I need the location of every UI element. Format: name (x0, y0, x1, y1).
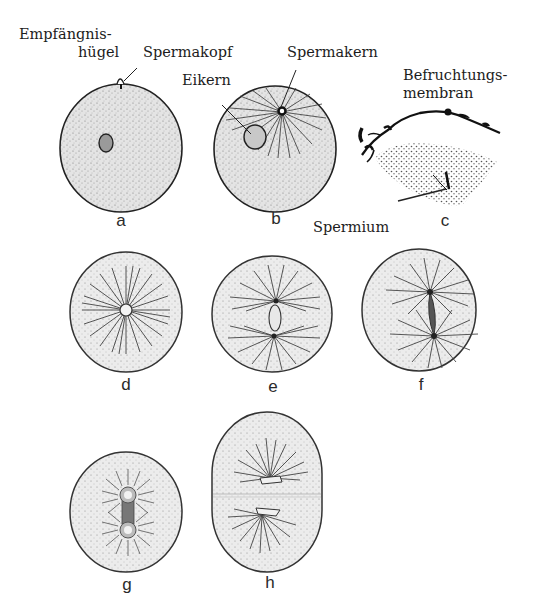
label-empfaengnishuegel-2: hügel (78, 44, 119, 60)
sperm-nucleus (279, 108, 286, 115)
panel-b (214, 70, 336, 212)
label-eikern: Eikern (182, 72, 231, 88)
egg-cell-f (362, 249, 476, 371)
egg-cell-h (212, 412, 322, 572)
fertilization-cone (117, 79, 124, 84)
nucleus-e (269, 305, 281, 331)
panel-label-b: b (271, 210, 280, 228)
panel-label-d: d (121, 376, 130, 394)
panel-f (362, 249, 478, 371)
panel-c (360, 109, 500, 206)
panel-g (70, 452, 182, 572)
panel-label-f: f (419, 376, 424, 394)
panel-d (70, 252, 182, 372)
panel-label-a: a (116, 212, 125, 230)
panel-label-g: g (122, 576, 131, 594)
fused-nucleus-d (120, 304, 132, 316)
egg-surface-fragment (375, 143, 497, 206)
panel-a (60, 68, 182, 212)
panel-label-c: c (441, 212, 450, 230)
label-spermakopf: Spermakopf (143, 44, 232, 60)
egg-cell-a (60, 84, 182, 212)
panel-e (212, 256, 332, 372)
label-empfaengnishuegel-1: Empfängnis- (19, 26, 112, 42)
panel-h (212, 412, 322, 572)
spindle-g (122, 500, 134, 524)
fertilization-figure: Empfängnis- hügel Spermakopf Eikern Sper… (0, 0, 541, 616)
panel-label-h: h (265, 574, 274, 592)
egg-nucleus-b (244, 125, 266, 149)
label-spermium: Spermium (313, 219, 389, 235)
label-befruchtungsmembran-2: membran (403, 85, 473, 101)
egg-nucleus-a (99, 134, 113, 152)
daughter-nucleus-h-upper (260, 476, 282, 484)
panel-label-e: e (268, 378, 277, 396)
spermakopf-pointer (124, 68, 137, 81)
label-spermakern: Spermakern (287, 44, 378, 60)
label-befruchtungsmembran-1: Befruchtungs- (403, 67, 507, 83)
